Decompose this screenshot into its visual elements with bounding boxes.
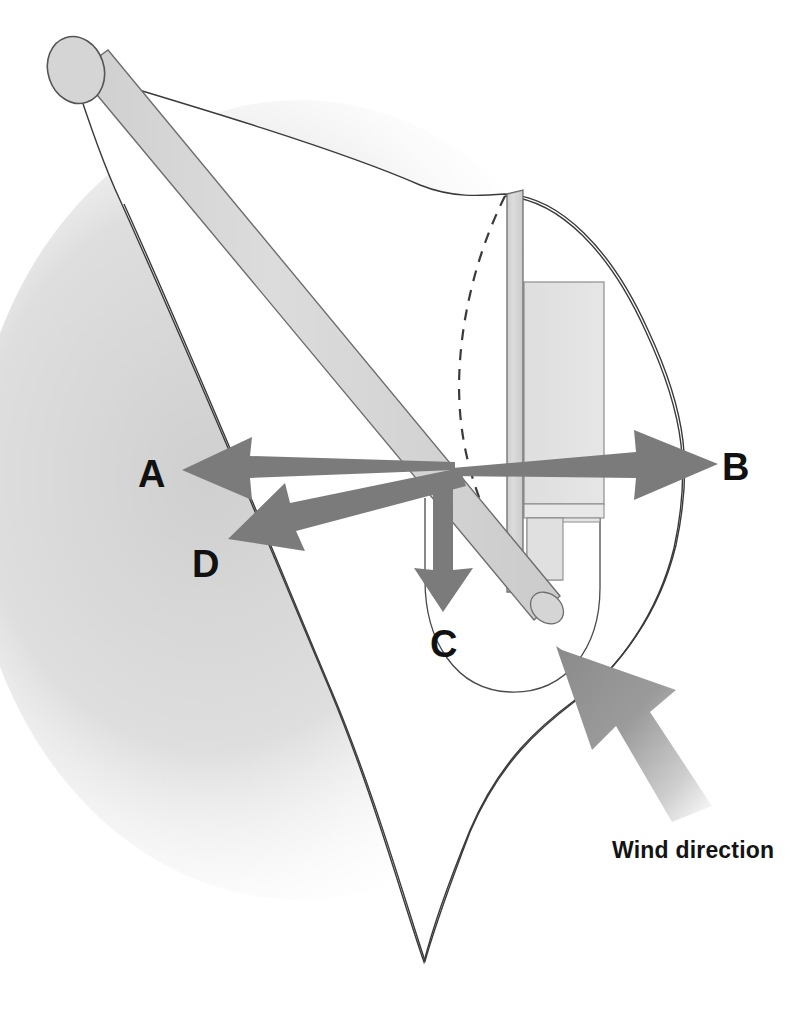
wind-arrow[interactable] [556,646,712,822]
label-b: B [722,446,749,488]
label-wind-direction: Wind direction [612,837,774,863]
sailboat-force-diagram: A B C D Wind direction [0,0,804,1033]
label-c: C [430,623,457,665]
diagram-canvas: A B C D Wind direction [0,0,804,1033]
daggerboard-panel [524,282,604,518]
label-d: D [192,543,219,585]
label-a: A [138,453,165,495]
mast-spar [507,190,523,592]
